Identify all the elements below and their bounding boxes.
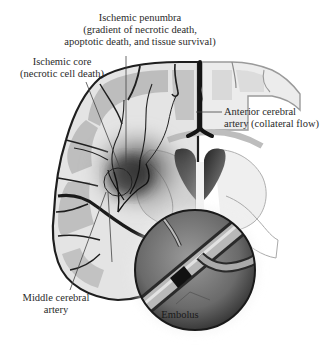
anterior-title: Anterior cerebral xyxy=(224,106,319,118)
penumbra-title: Ischemic penumbra xyxy=(52,12,228,24)
middle-title: Middle cerebral xyxy=(14,292,98,304)
anterior-desc: artery (collateral flow) xyxy=(224,118,319,130)
penumbra-desc-2: apoptotic death, and tissue survival) xyxy=(52,36,228,48)
label-anterior-cerebral-artery: Anterior cerebral artery (collateral flo… xyxy=(224,106,319,130)
label-middle-cerebral-artery: Middle cerebral artery xyxy=(14,292,98,316)
middle-desc: artery xyxy=(14,304,98,316)
label-ischemic-core: Ischemic core (necrotic cell death) xyxy=(14,56,110,80)
core-title: Ischemic core xyxy=(14,56,110,68)
label-embolus: Embolus xyxy=(150,309,210,321)
core-desc: (necrotic cell death) xyxy=(14,68,110,80)
label-ischemic-penumbra: Ischemic penumbra (gradient of necrotic … xyxy=(52,12,228,48)
penumbra-desc-1: (gradient of necrotic death, xyxy=(52,24,228,36)
